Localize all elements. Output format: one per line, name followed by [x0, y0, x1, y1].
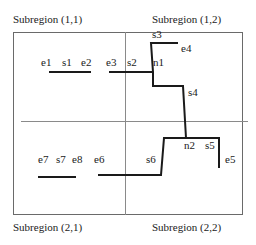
label-s7: s7 — [56, 153, 66, 165]
subregion-label-2-1: Subregion (2,1) — [13, 221, 82, 234]
label-e5: e5 — [225, 153, 236, 165]
label-s6: s6 — [146, 153, 156, 165]
label-e3: e3 — [106, 56, 117, 68]
label-e8: e8 — [72, 153, 83, 165]
label-s2: s2 — [127, 56, 137, 68]
subregion-label-1-1: Subregion (1,1) — [13, 13, 82, 26]
label-n1: n1 — [153, 56, 164, 68]
segment-s4 — [153, 72, 186, 138]
label-e1: e1 — [41, 56, 51, 68]
subregion-diagram: Subregion (1,1) Subregion (1,2) Subregio… — [0, 0, 256, 245]
label-s4: s4 — [188, 86, 198, 98]
subregion-label-2-2: Subregion (2,2) — [152, 221, 221, 234]
label-e6: e6 — [94, 153, 105, 165]
label-e4: e4 — [181, 42, 192, 54]
label-n2: n2 — [184, 139, 195, 151]
label-e2: e2 — [81, 56, 91, 68]
label-s1: s1 — [62, 56, 72, 68]
subregion-label-1-2: Subregion (1,2) — [152, 13, 221, 26]
label-s5: s5 — [205, 139, 215, 151]
label-e7: e7 — [38, 153, 49, 165]
segment-s6 — [98, 138, 186, 175]
label-s3: s3 — [152, 28, 162, 40]
